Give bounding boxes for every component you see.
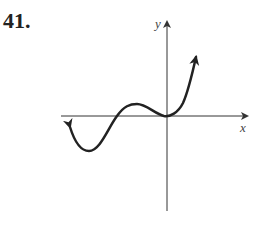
y-axis-label: y — [153, 16, 161, 31]
function-curve — [70, 57, 196, 151]
x-axis-label: x — [239, 120, 246, 135]
function-graph: x y — [0, 0, 265, 228]
